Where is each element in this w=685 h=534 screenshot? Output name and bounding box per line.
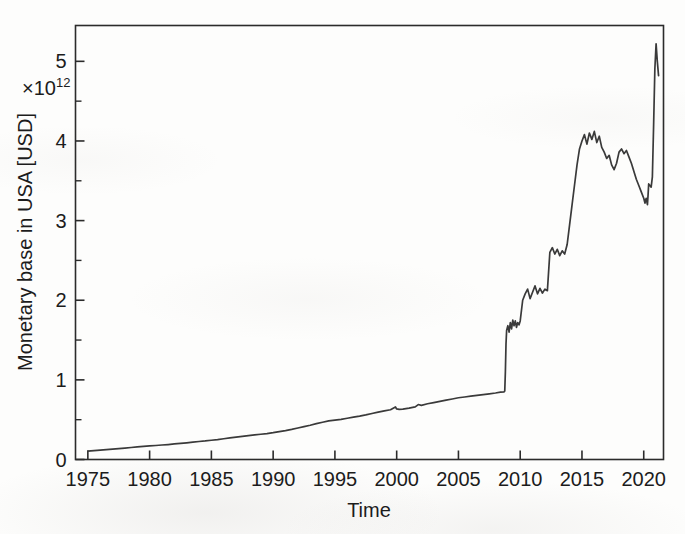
x-tick-label-1980: 1980 xyxy=(127,468,172,490)
x-axis-title: Time xyxy=(347,499,391,521)
x-tick-label-2015: 2015 xyxy=(560,468,605,490)
x-tick-label-2020: 2020 xyxy=(621,468,666,490)
data-series-line xyxy=(88,44,659,451)
x-axis-major-ticks xyxy=(88,451,644,460)
y-axis-title: Monetary base in USA [USD] xyxy=(14,113,36,371)
y-tick-label-2: 2 xyxy=(55,289,66,311)
y-axis-minor-ticks xyxy=(76,101,82,420)
y-axis-multiplier-exponent: 12 xyxy=(56,75,70,90)
y-axis-multiplier-label: ×1012 xyxy=(22,75,70,99)
x-axis-tick-labels: 1975198019851990199520002005201020152020 xyxy=(66,468,666,490)
chart-figure: 012345 197519801985199019952000200520102… xyxy=(0,0,685,534)
x-tick-label-2005: 2005 xyxy=(436,468,481,490)
y-tick-label-3: 3 xyxy=(55,210,66,232)
x-tick-label-1990: 1990 xyxy=(251,468,296,490)
y-tick-label-5: 5 xyxy=(55,50,66,72)
y-axis-tick-labels: 012345 xyxy=(55,50,66,470)
x-tick-label-1985: 1985 xyxy=(189,468,234,490)
y-tick-label-4: 4 xyxy=(55,130,66,152)
x-tick-label-1995: 1995 xyxy=(313,468,358,490)
plot-frame xyxy=(76,26,664,460)
x-tick-label-1975: 1975 xyxy=(66,468,111,490)
x-tick-label-2000: 2000 xyxy=(374,468,419,490)
monetary-base-line-chart: 012345 197519801985199019952000200520102… xyxy=(0,0,685,534)
x-tick-label-2010: 2010 xyxy=(498,468,543,490)
y-tick-label-1: 1 xyxy=(55,369,66,391)
